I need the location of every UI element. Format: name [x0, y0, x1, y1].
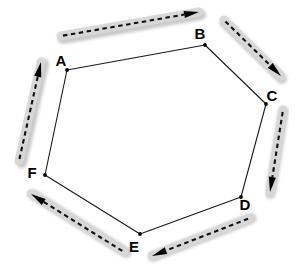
arrow-ef	[31, 194, 126, 253]
vertex-label-d: D	[240, 196, 251, 213]
circulation-arrow-layer	[19, 11, 283, 256]
arrow-cd	[269, 110, 284, 193]
polygon-edge-fa	[45, 70, 67, 175]
polygon-edge-cd	[241, 104, 266, 197]
vertex-label-a: A	[56, 52, 67, 69]
hexagon-circulation-diagram: ABCDEF	[0, 0, 304, 272]
vertex-dot-e	[138, 232, 142, 236]
diagram-canvas: ABCDEF	[0, 0, 304, 272]
arrow-bc	[224, 20, 282, 78]
vertex-layer	[43, 43, 268, 236]
vertex-label-b: B	[195, 25, 206, 42]
vertex-label-f: F	[27, 164, 36, 181]
polygon-edge-ef	[45, 175, 140, 234]
arrow-fa	[19, 62, 44, 163]
vertex-dot-f	[43, 173, 47, 177]
polygon-edge-ab	[67, 45, 205, 70]
vertex-label-c: C	[267, 87, 278, 104]
arrow-ab	[61, 11, 201, 39]
polygon-layer	[45, 45, 266, 234]
vertex-dot-b	[203, 43, 207, 47]
vertex-label-e: E	[129, 238, 139, 255]
